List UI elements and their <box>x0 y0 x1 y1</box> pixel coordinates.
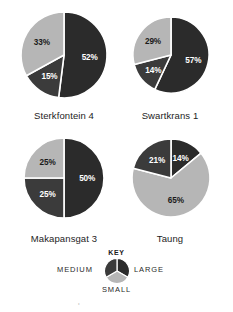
pie-chart-taung: 14%65%21% <box>107 128 233 233</box>
pie-title-taung: Taung <box>107 233 233 244</box>
pie-slice-label-medium: 21% <box>149 156 166 165</box>
pie-slice-label-medium: 15% <box>41 72 58 81</box>
key-label-medium: MEDIUM <box>57 265 93 274</box>
chart-key: KEY MEDIUM LARGE SMALL <box>0 249 233 297</box>
key-pie-icon <box>104 258 130 284</box>
pie-slice-label-large: 57% <box>185 56 202 65</box>
pie-slice-label-large: 50% <box>79 174 96 183</box>
cut-off-caption-text: the overall pattern of the size distribu… <box>0 303 233 305</box>
pie-title-swartkrans-1: Swartkrans 1 <box>107 110 233 121</box>
pie-slice-label-small: 25% <box>40 158 57 167</box>
pie-slice-label-small: 29% <box>145 37 162 46</box>
key-label-large: LARGE <box>134 265 164 274</box>
pie-slice-label-small: 33% <box>34 38 51 47</box>
pie-slice-label-medium: 25% <box>40 190 57 199</box>
pie-slice-label-medium: 14% <box>145 66 162 75</box>
pie-panel-swartkrans-1: 57%14%29% Swartkrans 1 <box>107 0 233 128</box>
cut-off-caption: the overall pattern of the size distribu… <box>0 303 233 312</box>
pie-panel-taung: 14%65%21% Taung <box>107 128 233 252</box>
pie-chart-figure: 52%15%33% Sterkfontein 4 57%14%29% Swart… <box>0 0 233 312</box>
pie-slice-label-small: 65% <box>168 196 185 205</box>
pie-slice-label-large: 14% <box>173 154 190 163</box>
pie-slice-label-large: 52% <box>82 53 99 62</box>
key-pie <box>104 258 130 284</box>
key-label-small: SMALL <box>0 285 233 294</box>
pie-chart-swartkrans-1: 57%14%29% <box>107 0 233 110</box>
key-heading: KEY <box>0 249 233 256</box>
